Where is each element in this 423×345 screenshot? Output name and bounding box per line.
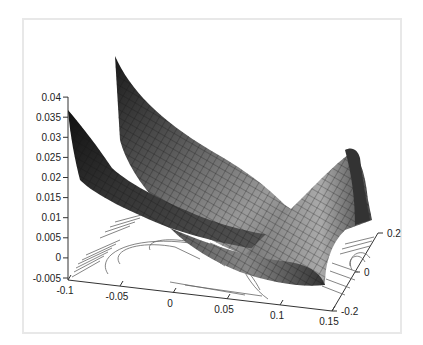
y-tick-label: 0.2 xyxy=(387,228,401,239)
x-tick-label: 0.1 xyxy=(270,310,284,321)
z-tick-label: 0.03 xyxy=(42,132,62,143)
x-tick-label: -0.05 xyxy=(106,291,129,302)
surface-mesh xyxy=(68,56,372,286)
z-tick-label: 0.02 xyxy=(42,172,62,183)
z-tick-label: 0.04 xyxy=(42,92,62,103)
x-tick-label: 0.05 xyxy=(214,304,234,315)
z-tick-label: 0.005 xyxy=(36,232,61,243)
z-axis: -0.00500.0050.010.0150.020.0250.030.0350… xyxy=(33,92,68,284)
z-tick-label: -0.005 xyxy=(33,273,62,284)
y-tick-label: 0 xyxy=(364,267,370,278)
z-tick-label: 0.01 xyxy=(42,212,62,223)
y-tick-label: -0.2 xyxy=(341,306,359,317)
x-tick-label: 0.15 xyxy=(319,316,339,327)
surface-plot: -0.00500.0050.010.0150.020.0250.030.0350… xyxy=(0,0,423,345)
z-tick-label: 0.035 xyxy=(36,112,61,123)
z-tick-label: 0.025 xyxy=(36,152,61,163)
x-tick-label: -0.1 xyxy=(56,285,74,296)
z-tick-label: 0.015 xyxy=(36,192,61,203)
z-tick-label: 0 xyxy=(55,252,61,263)
x-tick-label: 0 xyxy=(167,298,173,309)
